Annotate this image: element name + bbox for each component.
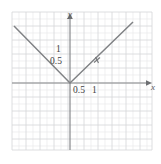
x-tick-label-1: 1 [92, 86, 97, 96]
absolute-value-curve [14, 22, 133, 83]
graph-canvas [0, 0, 161, 164]
absolute-value-graph-figure: y x 1 0.5 0.5 1 [0, 0, 161, 164]
minor-gridlines [12, 12, 152, 150]
y-tick-label-0point5: 0.5 [50, 57, 62, 67]
y-tick-label-1: 1 [56, 45, 61, 55]
x-tick-label-0point5: 0.5 [73, 86, 85, 96]
x-axis-label: x [151, 83, 155, 92]
y-axis-label: y [68, 10, 72, 19]
